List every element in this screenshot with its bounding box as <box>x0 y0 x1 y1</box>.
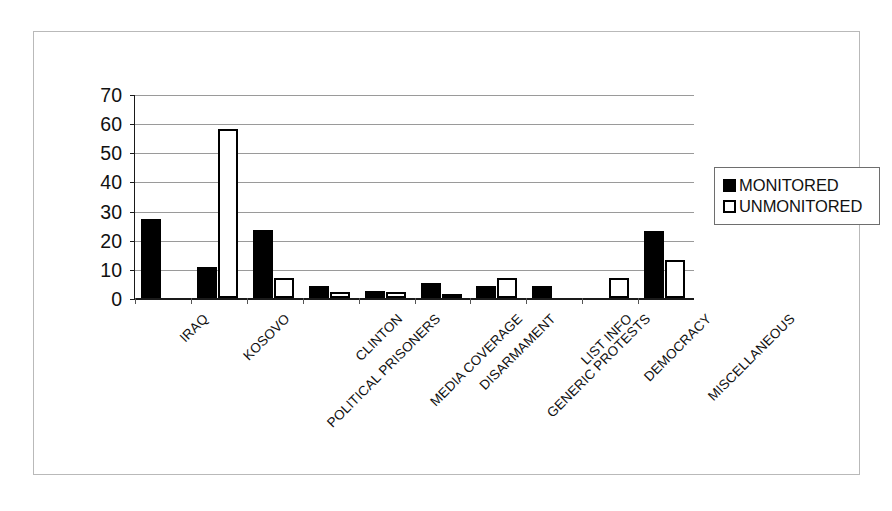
gridline-70 <box>135 95 694 96</box>
y-axis-tickmark-60 <box>130 124 135 125</box>
x-axis-tickmark-5 <box>415 298 416 304</box>
y-axis-tickmark-30 <box>130 212 135 213</box>
legend-swatch-hollow-square-icon <box>723 200 736 213</box>
bar-generic-protests-unmonitored <box>497 278 517 298</box>
bar-miscellaneous-monitored <box>644 231 664 298</box>
x-axis-tickmark-3 <box>303 298 304 304</box>
y-axis-tickmark-20 <box>130 241 135 242</box>
gridline-60 <box>135 124 694 125</box>
x-axis-tickmark-7 <box>526 298 527 304</box>
bar-political-prisoners-monitored <box>253 230 273 298</box>
y-axis-tick-label-0: 0 <box>35 288 135 311</box>
bar-media-coverage-unmonitored <box>386 292 406 298</box>
legend-label-monitored: MONITORED <box>739 177 839 194</box>
x-axis-tickmark-8 <box>582 298 583 304</box>
legend-label-unmonitored: UNMONITORED <box>739 198 862 215</box>
legend-item-unmonitored: UNMONITORED <box>723 196 873 217</box>
bar-political-prisoners-unmonitored <box>274 278 294 298</box>
x-axis-tickmark-1 <box>191 298 192 304</box>
legend-item-monitored: MONITORED <box>723 175 873 196</box>
y-axis-tick-label-60: 60 <box>35 113 135 136</box>
bar-iraq-monitored <box>141 219 161 298</box>
x-axis-tickmark-0 <box>135 298 136 304</box>
x-axis-tickmark-6 <box>470 298 471 304</box>
y-axis-tickmark-10 <box>130 270 135 271</box>
y-axis-tick-label-40: 40 <box>35 171 135 194</box>
bar-democracy-unmonitored <box>609 278 629 298</box>
bar-disarmament-monitored <box>421 283 441 298</box>
x-axis-tickmark-2 <box>247 298 248 304</box>
x-axis-label-iraq: IRAQ <box>177 311 211 345</box>
x-axis-tickmark-9 <box>638 298 639 304</box>
chart-legend: MONITORED UNMONITORED <box>714 167 880 225</box>
y-axis-tick-label-30: 30 <box>35 200 135 223</box>
y-axis-tick-label-50: 50 <box>35 142 135 165</box>
bar-clinton-monitored <box>309 286 329 298</box>
y-axis-tickmark-70 <box>130 95 135 96</box>
bar-disarmament-unmonitored <box>442 294 462 298</box>
y-axis-tickmark-40 <box>130 182 135 183</box>
y-axis-tick-label-10: 10 <box>35 258 135 281</box>
bar-generic-protests-monitored <box>476 286 496 298</box>
bar-media-coverage-monitored <box>365 291 385 298</box>
bar-clinton-unmonitored <box>330 292 350 298</box>
x-axis-label-kosovo: KOSOVO <box>241 311 293 363</box>
x-axis-tickmark-4 <box>359 298 360 304</box>
y-axis-tickmark-50 <box>130 153 135 154</box>
figure-frame: 010203040506070IRAQKOSOVOPOLITICAL PRISO… <box>33 31 860 475</box>
legend-swatch-filled-square-icon <box>723 179 736 192</box>
x-axis-label-miscellaneous: MISCELLANEOUS <box>705 311 798 404</box>
bar-miscellaneous-unmonitored <box>665 260 685 298</box>
plot-area: 010203040506070IRAQKOSOVOPOLITICAL PRISO… <box>134 95 694 299</box>
bar-list-info-monitored <box>532 286 552 298</box>
bar-kosovo-monitored <box>197 267 217 298</box>
x-axis-label-generic-protests: GENERIC PROTESTS <box>544 311 653 420</box>
bar-kosovo-unmonitored <box>218 129 238 298</box>
y-axis-tick-label-20: 20 <box>35 229 135 252</box>
y-axis-tick-label-70: 70 <box>35 84 135 107</box>
